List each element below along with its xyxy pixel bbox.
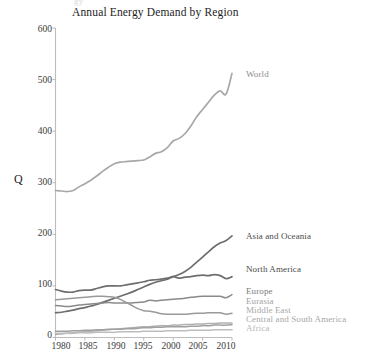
series-label-asia: Asia and Oceania [246,231,311,241]
series-label-europe: Europe [246,286,273,296]
axis-lines [56,28,233,338]
series-label-africa: Africa [246,323,270,333]
chart-plot-area [0,0,383,364]
series-lines [56,73,233,334]
series-line-north_america [56,275,233,293]
series-label-north-america: North America [246,264,301,274]
series-label-world: World [246,69,269,79]
series-line-world [56,73,233,191]
series-line-europe [56,295,233,307]
